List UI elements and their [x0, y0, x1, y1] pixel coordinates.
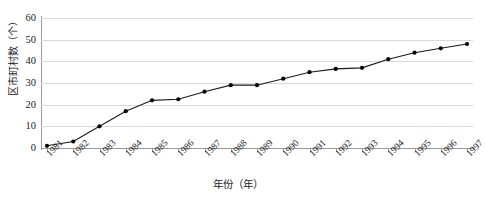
y-tick-label-60: 60: [6, 13, 36, 24]
data-point-1997: [465, 42, 469, 46]
data-point-1985: [150, 98, 154, 102]
data-point-1993: [360, 66, 364, 70]
y-tick-label-10: 10: [6, 121, 36, 132]
data-point-1986: [176, 97, 180, 101]
data-point-1990: [281, 77, 285, 81]
data-point-1982: [71, 139, 75, 143]
data-point-1983: [97, 124, 101, 128]
y-tick-label-50: 50: [6, 34, 36, 45]
data-point-1988: [229, 83, 233, 87]
data-point-1987: [202, 90, 206, 94]
data-point-1996: [439, 46, 443, 50]
y-axis-tick-labels: 0102030405060: [6, 0, 36, 204]
y-tick-label-40: 40: [6, 56, 36, 67]
data-point-1984: [124, 109, 128, 113]
data-point-1991: [307, 70, 311, 74]
data-point-1989: [255, 83, 259, 87]
data-point-1994: [386, 57, 390, 61]
data-point-1992: [334, 67, 338, 71]
plot-area: [41, 18, 473, 148]
data-series-line: [41, 18, 473, 148]
y-tick-label-30: 30: [6, 78, 36, 89]
y-tick-label-0: 0: [6, 143, 36, 154]
x-axis-title: 年份（年）: [0, 176, 476, 191]
y-tick-label-20: 20: [6, 99, 36, 110]
data-point-1995: [412, 51, 416, 55]
series-polyline: [47, 44, 467, 146]
